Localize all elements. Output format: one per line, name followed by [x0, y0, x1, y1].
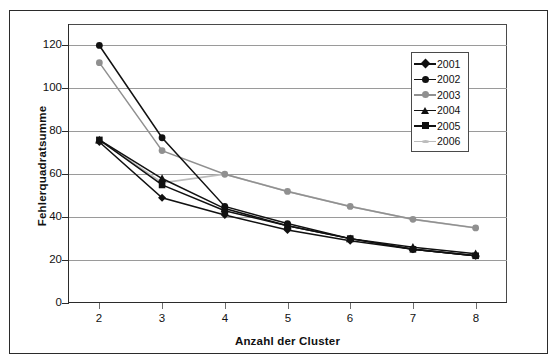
legend-item-2005[interactable]: 2005 [412, 118, 468, 134]
legend-item-2006[interactable]: 2006 [412, 134, 468, 150]
legend-marker-circle-icon [414, 73, 436, 85]
data-point [410, 246, 417, 253]
data-point [472, 224, 479, 231]
legend-marker-dash-icon [414, 135, 436, 147]
data-point [221, 203, 228, 210]
legend-marker-circle-icon [414, 89, 436, 101]
data-point [159, 182, 166, 189]
legend-label: 2004 [436, 105, 460, 116]
series-2005 [96, 137, 479, 259]
data-point [347, 235, 354, 242]
legend-marker-diamond-icon [414, 58, 436, 70]
series-line [99, 142, 475, 256]
legend-label: 2005 [436, 121, 460, 132]
chart-legend: 200120022003200420052006 [411, 52, 469, 152]
legend-marker-square-icon [414, 120, 436, 132]
legend-label: 2002 [436, 74, 460, 85]
series-line [99, 140, 475, 228]
legend-item-2003[interactable]: 2003 [412, 87, 468, 103]
legend-item-2004[interactable]: 2004 [412, 103, 468, 119]
x-axis-title: Anzahl der Cluster [68, 335, 507, 347]
series-2006 [96, 138, 479, 229]
data-point [347, 203, 354, 210]
legend-label: 2006 [436, 136, 460, 147]
series-line [99, 140, 475, 256]
data-point [158, 174, 166, 182]
legend-item-2002[interactable]: 2002 [412, 72, 468, 88]
data-point [96, 42, 103, 49]
data-point [284, 188, 291, 195]
legend-label: 2003 [436, 90, 460, 101]
legend-marker-triangle-icon [414, 104, 436, 116]
legend-item-2001[interactable]: 2001 [412, 56, 468, 72]
series-layer [0, 0, 557, 364]
data-point [221, 171, 228, 178]
series-2004 [95, 136, 480, 258]
series-line [99, 140, 475, 254]
data-point [284, 220, 291, 227]
data-point [159, 134, 166, 141]
data-point [472, 252, 479, 259]
data-point [159, 147, 166, 154]
chart-figure: Fehlerquadratsumme 020406080100120 23456… [0, 0, 557, 364]
data-point [96, 59, 103, 66]
series-2001 [95, 138, 479, 260]
data-point [410, 216, 417, 223]
legend-label: 2001 [436, 59, 460, 70]
